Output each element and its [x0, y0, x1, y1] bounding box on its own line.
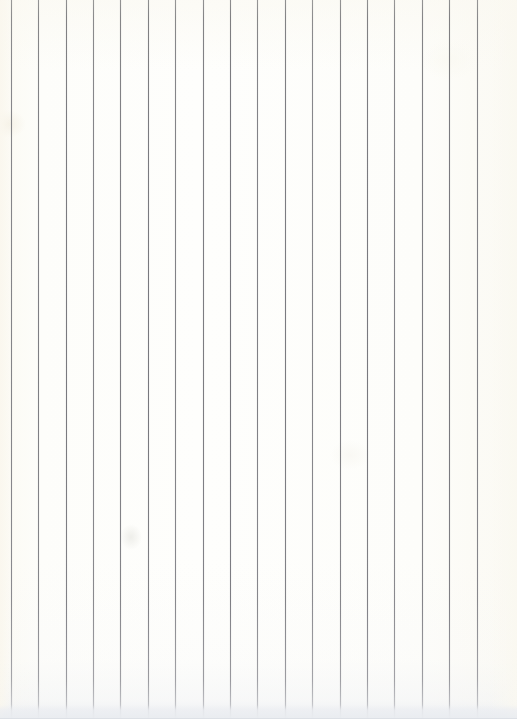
rule-line — [394, 0, 395, 719]
rule-line — [257, 0, 258, 719]
rule-line — [38, 0, 39, 719]
rule-line — [120, 0, 121, 719]
rule-line — [312, 0, 313, 719]
rule-line — [11, 0, 12, 719]
rule-line — [93, 0, 94, 719]
rule-line — [477, 0, 478, 719]
scanned-paper-image — [0, 0, 517, 719]
rule-line — [175, 0, 176, 719]
rule-line — [285, 0, 286, 719]
rule-line — [449, 0, 450, 719]
rule-line — [203, 0, 204, 719]
rule-line — [148, 0, 149, 719]
rule-line — [340, 0, 341, 719]
rule-line — [66, 0, 67, 719]
vertical-rule-lines — [0, 0, 517, 719]
rule-line — [230, 0, 231, 719]
rule-line — [367, 0, 368, 719]
rule-line — [422, 0, 423, 719]
